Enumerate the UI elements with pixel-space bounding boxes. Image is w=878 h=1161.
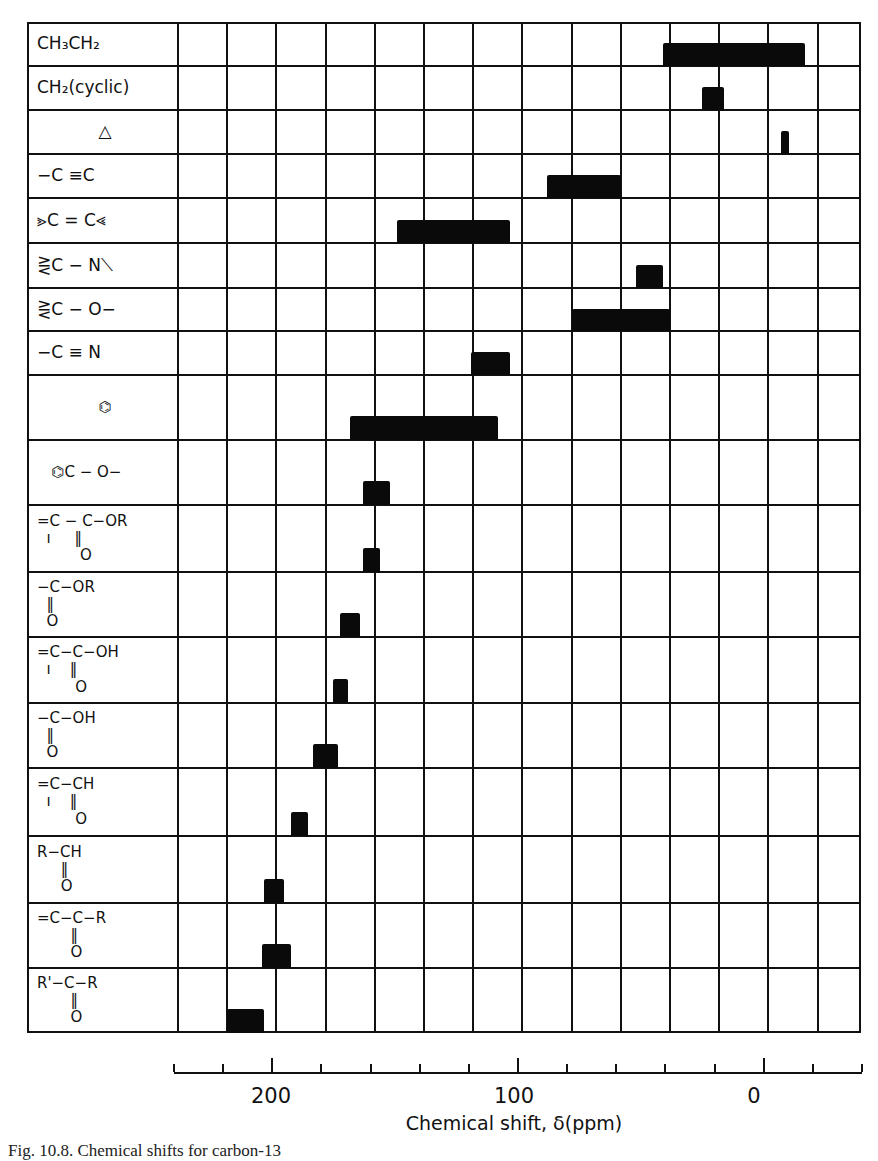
grid-line-120 [472,22,474,1033]
row-label: ⋛C − N⟍ [29,243,181,288]
tick-label-200: 200 [251,1084,291,1108]
row-label: =C−C−OH ı ‖ O [29,637,181,703]
row-label: R'−C−R ‖ O [29,968,181,1033]
x-axis-tick [664,1064,666,1072]
row-label: =C−C−R ‖ O [29,903,181,968]
tick-label-100: 100 [494,1084,534,1108]
shift-range-bar [781,131,789,154]
x-axis-tick [271,1058,273,1072]
shift-range-bar [547,175,621,198]
shift-range-bar [663,43,806,66]
shift-range-bar [702,87,724,110]
row-label: ⌬ [29,375,181,440]
shift-range-bar [363,481,390,505]
row-label: CH₃CH₂ [29,22,181,66]
row-label: △ [29,110,181,154]
grid-line-40 [669,22,671,1033]
x-axis-tick [566,1064,568,1072]
x-axis-tick [517,1058,519,1072]
grid-line-20 [718,22,720,1033]
x-axis-tick [861,1064,863,1072]
shift-range-bar [264,879,284,903]
shift-range-bar [313,744,338,768]
grid-line-60 [620,22,622,1033]
row-label: −C−OR ‖ O [29,572,181,637]
grid-line-160 [374,22,376,1033]
grid-line-80 [571,22,573,1033]
shift-range-bar [572,309,670,331]
shift-range-bar [291,812,308,836]
grid-line-140 [423,22,425,1033]
tick-label-0: 0 [747,1084,760,1108]
x-axis-line [174,1072,862,1074]
row-label: −C ≡C [29,154,181,198]
x-axis-tick [468,1064,470,1072]
shift-range-bar [363,548,380,572]
x-axis-tick [763,1058,765,1072]
figure-caption: Fig. 10.8. Chemical shifts for carbon-13 [8,1141,281,1161]
row-label: CH₂(cyclic) [29,66,181,110]
x-axis-tick [615,1064,617,1072]
x-axis-tick [222,1064,224,1072]
grid-line-100 [521,22,523,1033]
x-axis-tick [419,1064,421,1072]
x-axis-tick [714,1064,716,1072]
row-label: =C−CH ı ‖ O [29,768,181,836]
x-axis-tick [320,1064,322,1072]
shift-range-bar [227,1009,264,1033]
shift-range-bar [262,944,292,968]
x-axis-tick [812,1064,814,1072]
row-label: −C−OH ‖ O [29,703,181,768]
shift-range-bar [471,352,510,375]
row-label: ⪢C = C⪡ [29,198,181,243]
grid-line--20 [817,22,819,1033]
row-label: R−CH ‖ O [29,836,181,903]
x-axis-label: Chemical shift, δ(ppm) [406,1112,622,1134]
shift-range-bar [333,679,348,703]
x-axis-tick [370,1064,372,1072]
x-axis-tick [173,1064,175,1072]
grid-line-0 [767,22,769,1033]
row-label: =C − C−OR ı ‖ O [29,505,181,572]
grid-line-180 [325,22,327,1033]
grid-line-220 [226,22,228,1033]
shift-range-bar [350,416,498,440]
row-label: ⌬C − O− [29,440,181,505]
row-label: ⋛C − O− [29,288,181,331]
shift-range-bar [340,613,360,637]
shift-range-bar [636,265,663,288]
row-label: −C ≡ N [29,331,181,375]
shift-range-bar [397,220,510,243]
